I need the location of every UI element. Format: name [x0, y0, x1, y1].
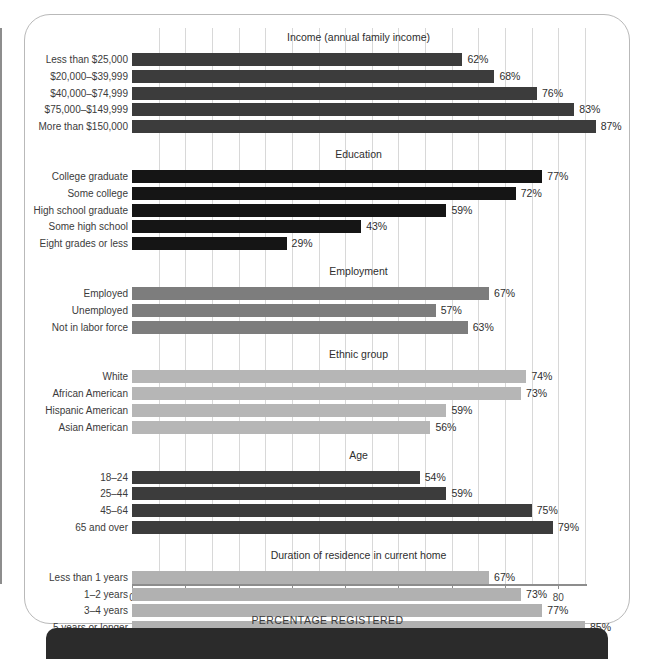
bar [132, 87, 537, 100]
category-label: Hispanic American [45, 404, 128, 417]
bar-value-label: 56% [435, 421, 456, 434]
y-axis-line [0, 28, 2, 584]
bar [132, 487, 446, 500]
bar [132, 471, 420, 484]
bar-value-label: 59% [451, 404, 472, 417]
bar-value-label: 29% [292, 237, 313, 250]
bar-value-label: 59% [451, 204, 472, 217]
bar [132, 370, 526, 383]
category-label: 18–24 [100, 471, 128, 484]
bar-value-label: 54% [425, 471, 446, 484]
bar-value-label: 76% [542, 87, 563, 100]
bar [132, 103, 574, 116]
bar-value-label: 73% [526, 387, 547, 400]
bar [132, 287, 489, 300]
bar-value-label: 59% [451, 487, 472, 500]
bar [132, 404, 446, 417]
category-label: Some high school [49, 220, 129, 233]
bar-value-label: 67% [494, 287, 515, 300]
category-label: $20,000–$39,999 [50, 70, 128, 83]
category-label: Not in labor force [52, 321, 128, 334]
bar-value-label: 63% [473, 321, 494, 334]
bar-value-label: 72% [521, 187, 542, 200]
bar [132, 521, 553, 534]
category-label: High school graduate [33, 204, 128, 217]
category-label: Less than $25,000 [46, 53, 128, 66]
bar-value-label: 67% [494, 571, 515, 584]
bar-value-label: 43% [366, 220, 387, 233]
bar [132, 571, 489, 584]
group-title: Employment [329, 265, 387, 277]
category-label: Unemployed [72, 304, 128, 317]
category-label: White [102, 370, 128, 383]
bar-value-label: 87% [601, 120, 622, 133]
bar-value-label: 83% [579, 103, 600, 116]
x-tick [558, 584, 559, 589]
bar-value-label: 75% [537, 504, 558, 517]
category-label: 45–64 [100, 504, 128, 517]
bar-value-label: 74% [531, 370, 552, 383]
bar [132, 187, 516, 200]
category-label: College graduate [52, 170, 128, 183]
category-label: More than $150,000 [38, 120, 128, 133]
category-label: 65 and over [75, 521, 128, 534]
bar [132, 304, 436, 317]
bar [132, 387, 521, 400]
category-label: African American [52, 387, 128, 400]
category-label: $40,000–$74,999 [50, 87, 128, 100]
bar [132, 170, 542, 183]
bar [132, 421, 430, 434]
bar-value-label: 73% [526, 588, 547, 601]
category-label: Asian American [59, 421, 128, 434]
group-title: Ethnic group [329, 348, 388, 360]
category-label: Less than 1 years [49, 571, 128, 584]
bar-value-label: 68% [499, 70, 520, 83]
x-axis-label: PERCENTAGE REGISTERED [0, 614, 655, 626]
bar-chart: 01020304050607080 Income (annual family … [0, 0, 655, 659]
category-label: 1–2 years [84, 588, 128, 601]
bar [132, 588, 521, 601]
bar [132, 321, 468, 334]
group-title: Income (annual family income) [287, 31, 430, 43]
bar [132, 120, 596, 133]
bar [132, 504, 532, 517]
bar [132, 53, 462, 66]
category-label: $75,000–$149,999 [45, 103, 128, 116]
category-label: Some college [67, 187, 128, 200]
group-title: Education [335, 148, 382, 160]
bar [132, 204, 446, 217]
bar-value-label: 57% [441, 304, 462, 317]
bottom-band [46, 628, 608, 659]
category-label: Eight grades or less [40, 237, 128, 250]
bar [132, 70, 494, 83]
x-axis-line [132, 584, 587, 586]
bar-value-label: 62% [467, 53, 488, 66]
bar [132, 237, 287, 250]
bar-value-label: 77% [547, 170, 568, 183]
x-tick-label: 80 [553, 592, 564, 603]
group-title: Duration of residence in current home [271, 549, 447, 561]
group-title: Age [349, 449, 368, 461]
category-label: Employed [84, 287, 128, 300]
bar-value-label: 79% [558, 521, 579, 534]
bar [132, 220, 361, 233]
category-label: 25–44 [100, 487, 128, 500]
